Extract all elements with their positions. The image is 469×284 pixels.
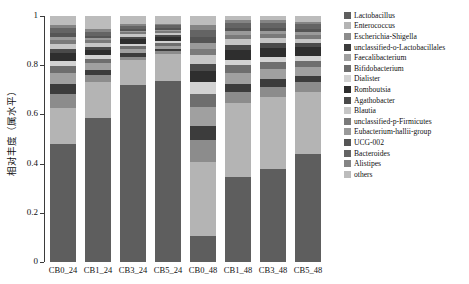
bar-segment[interactable]: [190, 55, 216, 64]
bar-segment[interactable]: [85, 82, 111, 118]
legend-color-swatch: [344, 97, 351, 104]
y-axis-tick-label: 0.8: [27, 58, 38, 70]
bar-segment[interactable]: [50, 94, 76, 109]
legend-item[interactable]: Bifidobacterium: [344, 63, 469, 74]
bar-segment[interactable]: [260, 97, 286, 168]
bar-segment[interactable]: [120, 60, 146, 85]
bar-segment[interactable]: [155, 81, 181, 262]
legend-item[interactable]: Lactobacillus: [344, 10, 469, 21]
bar-segment[interactable]: [190, 82, 216, 93]
stacked-bar[interactable]: [155, 16, 181, 262]
stacked-bar[interactable]: [295, 16, 321, 262]
y-axis-tick-mark: [40, 213, 44, 214]
bar-segment[interactable]: [155, 54, 181, 81]
legend-item[interactable]: UCG-002: [344, 137, 469, 148]
stacked-bar[interactable]: [85, 16, 111, 262]
bar-segment[interactable]: [50, 73, 76, 83]
bar-segment[interactable]: [295, 76, 321, 83]
legend-item-label: Agathobacter: [354, 96, 395, 105]
bar-segment[interactable]: [190, 94, 216, 108]
legend-item-label: Bacteroides: [354, 149, 390, 158]
bar-segment[interactable]: [50, 66, 76, 73]
y-axis-tick-label: 0.4: [27, 157, 38, 169]
bar-segment[interactable]: [260, 48, 286, 57]
bar-segment[interactable]: [260, 87, 286, 97]
bar-segment[interactable]: [190, 49, 216, 56]
bar-segment[interactable]: [50, 108, 76, 144]
legend-color-swatch: [344, 44, 351, 51]
bar-segment[interactable]: [50, 53, 76, 60]
legend-item[interactable]: Alistipes: [344, 158, 469, 169]
legend-item-label: Blautia: [354, 106, 376, 115]
legend-color-swatch: [344, 128, 351, 135]
legend-item[interactable]: Enterococcus: [344, 21, 469, 32]
bar-segment[interactable]: [225, 84, 251, 93]
bar-segment[interactable]: [190, 107, 216, 125]
legend-item[interactable]: Agathobacter: [344, 95, 469, 106]
bar-segment[interactable]: [190, 64, 216, 71]
legend-color-swatch: [344, 160, 351, 167]
stacked-bar[interactable]: [260, 16, 286, 262]
bar-segment[interactable]: [225, 73, 251, 84]
bar-segment[interactable]: [260, 69, 286, 79]
legend-color-swatch: [344, 86, 351, 93]
bar-segment[interactable]: [295, 92, 321, 154]
bar-segment[interactable]: [85, 118, 111, 262]
bar-segment[interactable]: [225, 103, 251, 177]
bar-segment[interactable]: [225, 50, 251, 60]
legend-item[interactable]: others: [344, 169, 469, 180]
legend-color-swatch: [344, 150, 351, 157]
bar-segment[interactable]: [190, 71, 216, 82]
bar-segment[interactable]: [190, 140, 216, 162]
legend-item-label: Alistipes: [354, 159, 381, 168]
bar-segment[interactable]: [50, 16, 76, 25]
bar-segment[interactable]: [190, 236, 216, 262]
bar-segment[interactable]: [260, 169, 286, 262]
bar-segment[interactable]: [50, 144, 76, 262]
legend-item-label: UCG-002: [354, 138, 384, 147]
bar-segment[interactable]: [225, 92, 251, 103]
legend-item[interactable]: unclassified-o-Lactobacillales: [344, 42, 469, 53]
bar-segment[interactable]: [85, 75, 111, 82]
legend-item[interactable]: Faecalibacterium: [344, 52, 469, 63]
stacked-bar[interactable]: [120, 16, 146, 262]
stacked-bar[interactable]: [225, 16, 251, 262]
bar-segment[interactable]: [190, 126, 216, 141]
legend-item[interactable]: Escherichia-Shigella: [344, 31, 469, 42]
bar-segment[interactable]: [190, 16, 216, 25]
bar-segment[interactable]: [120, 16, 146, 24]
legend-color-swatch: [344, 65, 351, 72]
stacked-bar[interactable]: [50, 16, 76, 262]
legend-item[interactable]: Blautia: [344, 105, 469, 116]
y-axis-tick-label: 1: [34, 9, 39, 21]
legend-item[interactable]: Eubacterium-hallii-group: [344, 127, 469, 138]
bar-segment[interactable]: [295, 154, 321, 262]
bar-segment[interactable]: [120, 85, 146, 262]
bar-segment[interactable]: [155, 16, 181, 23]
bar-segment[interactable]: [225, 65, 251, 72]
bar-segment[interactable]: [50, 84, 76, 94]
x-axis-tick-label: CB5_48: [282, 265, 334, 276]
bar-segment[interactable]: [295, 47, 321, 56]
bar-segment[interactable]: [225, 177, 251, 262]
stacked-bar[interactable]: [190, 16, 216, 262]
bar-segment[interactable]: [260, 62, 286, 69]
y-axis-tick-mark: [40, 65, 44, 66]
legend-item-label: Dialister: [354, 74, 380, 83]
legend-item[interactable]: Dialister: [344, 74, 469, 85]
bar-segment[interactable]: [190, 30, 216, 37]
legend-color-swatch: [344, 139, 351, 146]
bar-segment[interactable]: [295, 82, 321, 92]
legend-item-label: Bifidobacterium: [354, 64, 404, 73]
legend-item-label: Enterococcus: [354, 21, 395, 30]
legend-item-label: Escherichia-Shigella: [354, 32, 417, 41]
legend-item[interactable]: Romboutsia: [344, 84, 469, 95]
legend-item-label: others: [354, 170, 373, 179]
bar-segment[interactable]: [85, 16, 111, 29]
bar-segment[interactable]: [295, 67, 321, 76]
legend-item[interactable]: unclassified-p-Firmicutes: [344, 116, 469, 127]
legend-item[interactable]: Bacteroides: [344, 148, 469, 159]
bar-segment[interactable]: [190, 162, 216, 236]
legend-color-swatch: [344, 171, 351, 178]
bar-segment[interactable]: [260, 79, 286, 87]
